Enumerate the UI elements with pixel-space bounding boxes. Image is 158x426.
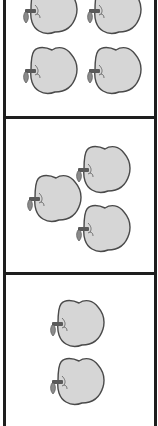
apple-icon	[86, 0, 144, 35]
divider-2	[3, 272, 156, 275]
apple-icon	[22, 45, 80, 95]
worksheet-frame	[0, 0, 158, 426]
apple-icon	[49, 356, 107, 406]
left-border	[3, 0, 6, 426]
apple-icon	[22, 0, 80, 35]
apple-icon	[86, 45, 144, 95]
apple-icon	[49, 298, 107, 348]
apple-icon	[75, 203, 133, 253]
right-border	[154, 0, 157, 426]
divider-1	[3, 116, 156, 119]
